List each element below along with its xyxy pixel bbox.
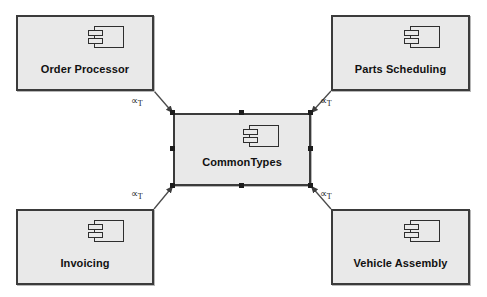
component-invoicing[interactable]: Invoicing — [16, 209, 154, 285]
component-label: CommonTypes — [175, 156, 309, 168]
diagram-canvas: Order ProcessorParts SchedulingCommonTyp… — [0, 0, 487, 297]
selection-handle[interactable] — [308, 110, 313, 115]
component-label: Vehicle Assembly — [333, 257, 468, 269]
component-icon-tab-bottom — [88, 232, 103, 238]
uml-component-icon — [404, 220, 440, 242]
stereotype-main-glyph: ∝ — [320, 95, 327, 106]
selection-handle[interactable] — [170, 110, 175, 115]
uml-component-icon — [404, 26, 440, 48]
component-icon-tab-bottom — [404, 38, 419, 44]
uml-component-icon — [88, 220, 124, 242]
uml-component-icon — [243, 125, 279, 147]
selection-handle[interactable] — [308, 183, 313, 188]
stereotype-label-order-processor-to-common-types: ∝T — [131, 95, 143, 106]
component-label: Parts Scheduling — [333, 63, 468, 75]
component-icon-tab-top — [404, 30, 419, 36]
uml-component-icon — [88, 26, 124, 48]
selection-handle[interactable] — [239, 110, 244, 115]
component-icon-tab-bottom — [404, 232, 419, 238]
selection-handle[interactable] — [239, 183, 244, 188]
stereotype-label-parts-scheduling-to-common-types: ∝T — [320, 95, 332, 106]
selection-handle[interactable] — [308, 146, 313, 151]
component-label: Order Processor — [18, 63, 152, 75]
stereotype-main-glyph: ∝ — [131, 188, 138, 199]
stereotype-label-vehicle-assembly-to-common-types: ∝T — [320, 188, 332, 199]
connector-invoicing-to-common-types[interactable] — [154, 186, 173, 209]
stereotype-sub-glyph: T — [138, 192, 143, 201]
component-parts-scheduling[interactable]: Parts Scheduling — [331, 15, 470, 91]
selection-handle[interactable] — [170, 146, 175, 151]
stereotype-sub-glyph: T — [327, 99, 332, 108]
component-common-types[interactable]: CommonTypes — [173, 113, 311, 186]
component-order-processor[interactable]: Order Processor — [16, 15, 154, 91]
component-icon-tab-top — [88, 30, 103, 36]
stereotype-sub-glyph: T — [327, 192, 332, 201]
component-icon-tab-top — [88, 224, 103, 230]
component-icon-tab-bottom — [243, 137, 258, 143]
component-label: Invoicing — [18, 257, 152, 269]
component-icon-tab-top — [243, 129, 258, 135]
stereotype-main-glyph: ∝ — [131, 95, 138, 106]
selection-handle[interactable] — [170, 183, 175, 188]
component-icon-tab-bottom — [88, 38, 103, 44]
stereotype-sub-glyph: T — [138, 99, 143, 108]
stereotype-label-invoicing-to-common-types: ∝T — [131, 188, 143, 199]
stereotype-main-glyph: ∝ — [320, 188, 327, 199]
component-vehicle-assembly[interactable]: Vehicle Assembly — [331, 209, 470, 285]
component-icon-tab-top — [404, 224, 419, 230]
